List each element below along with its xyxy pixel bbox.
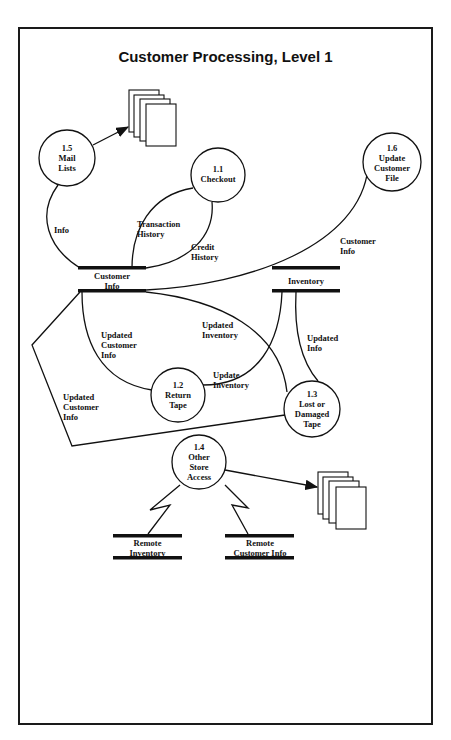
flow-remote-inventory [148,485,180,534]
store-customer-info-top [78,266,146,270]
store-inventory-bottom [272,289,340,293]
flow-mail-lists-output [93,127,128,145]
store-inventory-top [272,266,340,270]
flow-label-update-inventory: Update Inventory [213,370,249,390]
flow-label-credit-history: Credit History [191,242,218,262]
flow-other-store-output [225,470,317,487]
store-customer-info-label: Customer Info [78,271,146,291]
flow-remote-customer-info [225,485,248,534]
documents-bottom-icon [318,472,366,529]
store-remote-customer-info-top [225,534,294,538]
store-remote-inventory-label: Remote Inventory [113,538,182,558]
store-inventory-label: Inventory [272,276,340,286]
flow-label-updated-inventory: Updated Inventory [202,320,238,340]
flow-label-transaction-history: Transaction History [137,219,180,239]
process-1-6-label: 1.6 Update Customer File [365,143,419,183]
flow-updated-customer-info-2 [32,292,285,446]
documents-top-icon [129,90,176,146]
flow-label-updated-customer-info-1: Updated Customer Info [101,330,137,360]
store-remote-customer-info-label: Remote Customer Info [220,538,300,558]
store-remote-inventory-top [113,534,182,538]
process-1-4-label: 1.4 Other Store Access [174,442,224,482]
process-1-2-label: 1.2 Return Tape [153,380,203,410]
flow-label-customer-info: Customer Info [340,236,376,256]
process-1-1-label: 1.1 Checkout [193,164,243,184]
flow-label-updated-customer-info-2: Updated Customer Info [63,392,99,422]
flow-label-info: Info [54,225,69,235]
flow-label-updated-info: Updated Info [307,333,338,353]
process-1-5-label: 1.5 Mail Lists [47,143,87,173]
process-1-3-label: 1.3 Lost or Damaged Tape [285,389,339,429]
